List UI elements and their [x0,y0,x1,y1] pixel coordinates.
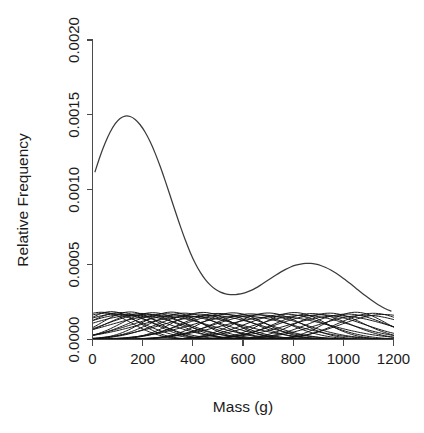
y-axis-tick-label: 0.0000 [65,317,82,363]
y-axis-tick-label: 0.0005 [65,242,82,288]
y-axis-tick-label: 0.0010 [65,167,82,213]
figure-canvas: 0.00000.00050.00100.00150.0020 020040060… [0,0,424,433]
x-axis-tick-label: 600 [230,350,255,367]
x-axis-tick-label: 1200 [377,350,410,367]
x-axis-title: Mass (g) [213,398,273,415]
y-axis-title: Relative Frequency [14,133,31,267]
x-axis-tick-label: 1000 [327,350,360,367]
y-axis-tick-label: 0.0020 [65,17,82,63]
x-axis-tick-label: 800 [281,350,306,367]
x-axis-tick-label: 0 [88,350,96,367]
density-plot: 0.00000.00050.00100.00150.0020 020040060… [0,0,424,433]
plot-background [0,0,424,433]
x-axis-tick-label: 200 [130,350,155,367]
y-axis-tick-label: 0.0015 [65,92,82,138]
x-axis-tick-label: 400 [180,350,205,367]
